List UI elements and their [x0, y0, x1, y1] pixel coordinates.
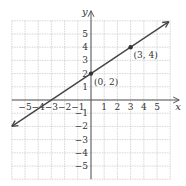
- data-point: [89, 71, 93, 75]
- x-axis-label: x: [175, 101, 181, 112]
- x-tick-label: 1: [101, 102, 107, 112]
- x-tick-label: 4: [141, 102, 147, 112]
- y-tick-label: 4: [82, 42, 88, 52]
- data-point: [128, 45, 132, 49]
- coordinate-plane: xy−5−4−3−2−112345−5−4−3−2−112345(0, 2)(3…: [0, 0, 186, 186]
- y-tick-label: 5: [82, 29, 88, 39]
- x-tick-label: 3: [128, 102, 134, 112]
- y-axis-label: y: [81, 6, 88, 17]
- data-point-label: (3, 4): [134, 50, 158, 60]
- x-tick-label: 2: [115, 102, 121, 112]
- y-tick-label: −2: [75, 121, 88, 131]
- y-tick-label: −5: [75, 161, 89, 171]
- x-tick-label: −4: [32, 102, 46, 112]
- data-point-label: (0, 2): [94, 77, 118, 87]
- y-tick-label: −3: [75, 135, 89, 145]
- y-tick-label: 1: [82, 82, 88, 92]
- y-tick-label: −4: [75, 148, 89, 158]
- y-tick-label: −1: [75, 108, 88, 118]
- x-tick-label: −2: [58, 102, 71, 112]
- y-tick-label: 3: [82, 55, 88, 65]
- x-tick-label: −5: [18, 102, 32, 112]
- x-tick-label: 5: [154, 102, 160, 112]
